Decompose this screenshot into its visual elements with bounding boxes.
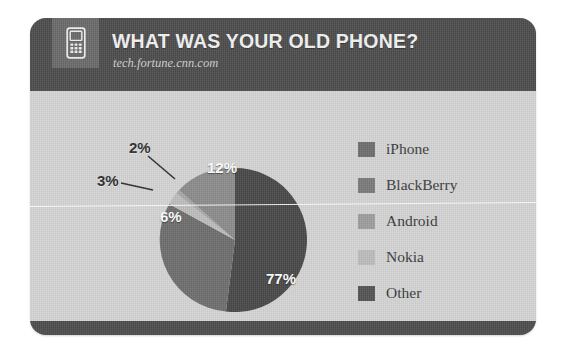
pie-label-blackberry: 3% (97, 172, 119, 189)
legend-label-iphone: iPhone (386, 140, 429, 158)
legend-label-other: Other (386, 284, 421, 302)
phone-icon-box (52, 18, 99, 68)
legend-item-android[interactable]: Android (358, 203, 508, 239)
legend-swatch-blackberry (358, 178, 375, 193)
pie-label-android: 2% (129, 139, 151, 156)
legend-item-blackberry[interactable]: BlackBerry (358, 167, 508, 203)
screenshot-root: WHAT WAS YOUR OLD PHONE? tech.fortune.cn… (0, 0, 572, 355)
source-url: tech.fortune.cnn.com (113, 56, 218, 71)
leader-line-2pct (148, 156, 175, 179)
legend-label-nokia: Nokia (386, 248, 424, 266)
card-header: WHAT WAS YOUR OLD PHONE? tech.fortune.cn… (30, 18, 536, 91)
pie-chart: 77% 12% 6% 3% 2% (135, 136, 335, 316)
legend-swatch-nokia (358, 250, 375, 265)
legend-label-android: Android (386, 212, 438, 230)
legend-label-blackberry: BlackBerry (386, 176, 457, 194)
pie-label-iphone: 12% (207, 159, 237, 176)
pie-slice-other[interactable] (226, 168, 307, 312)
legend-swatch-other (358, 286, 375, 301)
legend-item-other[interactable]: Other (358, 275, 508, 311)
card-footer (30, 321, 536, 335)
card-body: 77% 12% 6% 3% 2% iPhone BlackBerry (30, 91, 536, 321)
legend-swatch-iphone (358, 142, 375, 157)
leader-line-3pct (121, 183, 153, 190)
infographic-card: WHAT WAS YOUR OLD PHONE? tech.fortune.cn… (30, 18, 536, 335)
mobile-phone-icon (66, 27, 86, 59)
page-title: WHAT WAS YOUR OLD PHONE? (112, 30, 418, 53)
legend-item-nokia[interactable]: Nokia (358, 239, 508, 275)
legend-item-iphone[interactable]: iPhone (358, 131, 508, 167)
chart-legend: iPhone BlackBerry Android Nokia Other (358, 131, 508, 311)
legend-swatch-android (358, 214, 375, 229)
pie-label-other: 77% (266, 270, 296, 287)
pie-label-nokia: 6% (160, 208, 182, 225)
